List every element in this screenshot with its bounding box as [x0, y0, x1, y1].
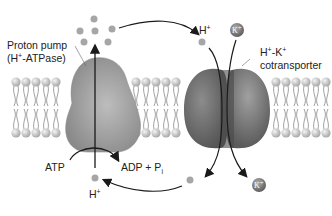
h-ion-label-bottom: H+	[89, 188, 101, 200]
membrane-diagram	[0, 0, 332, 216]
adp-pi-label: ADP + Pi	[121, 161, 163, 178]
lipid-bilayer	[11, 77, 330, 137]
proton-dot-top	[199, 39, 206, 46]
k-ion-bottom-label: K+	[254, 180, 264, 192]
proton-return-arrow	[104, 180, 182, 191]
proton-transfer-arrow	[119, 21, 198, 34]
h-ion-label-top: H+	[199, 24, 211, 36]
cotransporter-label-2: cotransporter	[260, 59, 322, 71]
cotransporter-label: H+-K+	[260, 46, 286, 58]
atp-label: ATP	[45, 161, 65, 173]
proton-pump-icon	[66, 58, 141, 152]
proton-pump-label: Proton pump	[7, 39, 67, 51]
proton-dot-cytoplasm	[92, 175, 99, 182]
proton-pump-label-2: (H+-ATPase)	[7, 52, 66, 64]
k-ion-top-label: K+	[232, 25, 242, 37]
proton-dot-bottom	[187, 177, 194, 184]
proton-cluster	[77, 16, 116, 46]
diagram-stage: Proton pump (H+-ATPase) H+-K+ cotranspor…	[0, 0, 332, 216]
